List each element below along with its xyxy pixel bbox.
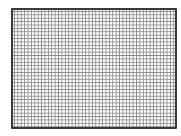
grid-rectangle	[11, 8, 177, 129]
canvas	[0, 0, 181, 136]
